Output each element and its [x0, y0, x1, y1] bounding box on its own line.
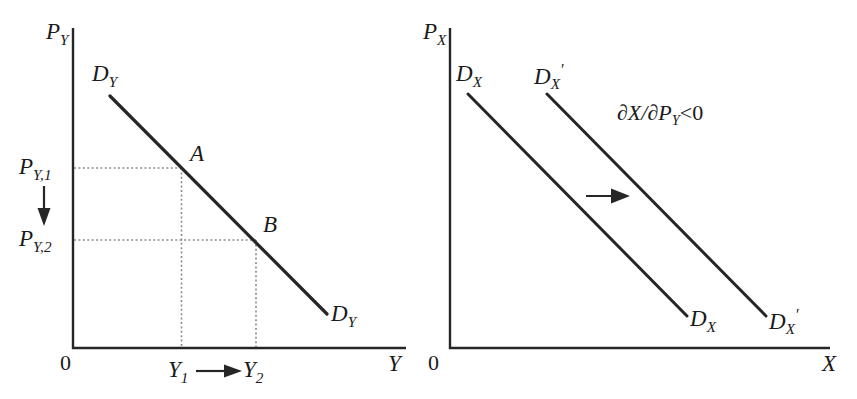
- right-y-axis-label: PX: [423, 20, 446, 47]
- demand-curve-x-prime-label-top: DX′: [534, 62, 563, 91]
- demand-curve-y-label-top: DY: [92, 62, 117, 89]
- point-a-label: A: [190, 142, 204, 165]
- price-y-1-label: PY,1: [19, 155, 52, 182]
- left-panel-guides: [74, 168, 256, 347]
- price-y-2-label: PY,2: [19, 227, 52, 254]
- cross-price-derivative-annotation: ∂X/∂PY<0: [617, 102, 703, 128]
- left-y-axis-label: PY: [46, 20, 69, 47]
- demand-curve-y: [110, 96, 327, 314]
- right-x-axis-label: X: [822, 352, 836, 375]
- demand-curve-x-label-top: DX: [456, 62, 482, 89]
- demand-curve-y-label-bottom: DY: [331, 302, 356, 329]
- left-x-axis-label: Y: [388, 352, 401, 375]
- demand-shift-arrow: [586, 189, 630, 204]
- quantity-y-2-label: Y2: [243, 358, 263, 385]
- price-decrease-arrow: [38, 186, 51, 226]
- quantity-y-1-label: Y1: [168, 358, 188, 385]
- right-origin-label: 0: [428, 352, 439, 374]
- point-b-label: B: [263, 213, 277, 236]
- figure-canvas: [0, 0, 857, 399]
- demand-curve-x-prime-label-bottom: DX′: [769, 307, 798, 336]
- left-panel-axes: [72, 28, 406, 349]
- quantity-increase-arrow: [196, 365, 242, 378]
- demand-curve-x-label-bottom: DX: [690, 307, 716, 334]
- left-origin-label: 0: [60, 352, 71, 374]
- economics-demand-shift-figure: PY Y 0 DY DY PY,1 PY,2 Y1 Y2 A B PX X 0 …: [0, 0, 857, 399]
